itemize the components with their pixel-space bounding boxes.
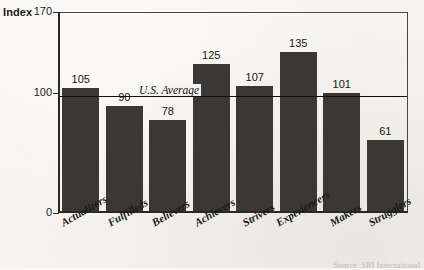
y-tick-label-170: 170 <box>34 5 52 17</box>
x-label-slot: Experiencers <box>277 215 321 263</box>
bar-series: 105907812510713510161 <box>59 13 407 212</box>
x-axis-labels: ActualizersFulfilledsBelieversAchieversS… <box>58 215 408 263</box>
x-label-slot: Makers <box>321 215 365 263</box>
bar-slot: 61 <box>364 13 408 212</box>
y-tickmark-0 <box>53 213 59 214</box>
y-tick-label-100: 100 <box>34 86 52 98</box>
bar-value-label: 101 <box>333 78 351 90</box>
bar-slot: 125 <box>190 13 234 212</box>
us-average-label: U.S. Average <box>137 84 201 96</box>
x-label-slot: Achievers <box>189 215 233 263</box>
bar[interactable]: 90 <box>106 106 143 212</box>
x-label-slot: Strivers <box>233 215 277 263</box>
bar-value-label: 125 <box>202 49 220 61</box>
x-label-slot: Actualizers <box>58 215 102 263</box>
y-tick-label-0: 0 <box>46 206 52 218</box>
y-axis-title: Index <box>3 6 32 18</box>
x-label-slot: Fulfilleds <box>102 215 146 263</box>
us-average-line <box>59 96 407 97</box>
bar-slot: 90 <box>103 13 147 212</box>
bar-value-label: 107 <box>246 71 264 83</box>
bar[interactable]: 105 <box>62 88 99 212</box>
bar-value-label: 135 <box>289 37 307 49</box>
plot-area: 105907812510713510161 U.S. Average <box>58 12 408 213</box>
bar-slot: 101 <box>320 13 364 212</box>
bar-value-label: 78 <box>162 105 174 117</box>
bar[interactable]: 135 <box>280 52 317 212</box>
bar[interactable]: 78 <box>149 120 186 212</box>
bar[interactable]: 107 <box>236 86 273 213</box>
bar-slot: 107 <box>233 13 277 212</box>
bar-value-label: 61 <box>379 125 391 137</box>
x-label-slot: Strugglers <box>364 215 408 263</box>
source-note: Source: SRI International <box>333 260 420 270</box>
bar-slot: 78 <box>146 13 190 212</box>
bar-slot: 135 <box>277 13 321 212</box>
x-label-slot: Believers <box>146 215 190 263</box>
bar-slot: 105 <box>59 13 103 212</box>
bar-value-label: 105 <box>72 73 90 85</box>
